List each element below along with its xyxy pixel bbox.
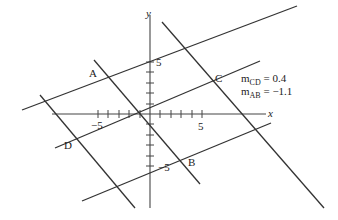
right-perpendicular-line-through-c	[162, 22, 324, 208]
point-label-d: D	[64, 139, 72, 151]
lower-parallel-line-through-b	[82, 123, 271, 201]
parallelogram-diagram: y x 5 −5 5 −5 A B C D mCD = 0.4 mAB = −1…	[0, 0, 338, 220]
point-label-a: A	[89, 67, 97, 79]
slope-ab-annotation: mAB = −1.1	[241, 85, 292, 100]
x-tick-label-5: 5	[198, 120, 204, 132]
y-tick-label-5: 5	[156, 56, 162, 68]
y-tick-label-neg5: −5	[158, 161, 170, 173]
point-label-c: C	[215, 72, 222, 84]
line-ab	[94, 60, 200, 184]
left-perpendicular-line-through-d	[40, 95, 135, 208]
x-tick-label-neg5: −5	[91, 119, 103, 131]
x-axis-label: x	[267, 107, 273, 119]
point-label-b: B	[188, 156, 195, 168]
y-axis-label: y	[145, 7, 151, 19]
